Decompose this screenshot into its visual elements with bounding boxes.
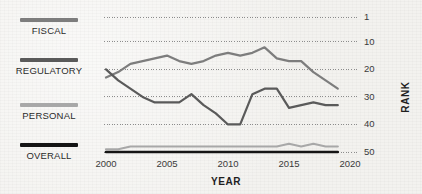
plot-area: 11020304050 20002005201020152020 RANK YE… [98, 0, 422, 194]
y-tick-10: 10 [364, 36, 375, 47]
y-axis-title: RANK [400, 81, 411, 112]
legend-item-fiscal[interactable]: FISCAL [0, 18, 98, 36]
legend-label-personal: PERSONAL [0, 110, 98, 121]
legend-swatch-fiscal [20, 18, 78, 22]
series-line-fiscal [106, 47, 338, 88]
y-tick-50: 50 [364, 146, 375, 157]
x-tick-2015: 2015 [278, 158, 299, 169]
legend-swatch-personal [20, 103, 78, 107]
x-tick-2020: 2020 [339, 158, 360, 169]
y-tick-20: 20 [364, 63, 375, 74]
chart-canvas: FISCAL REGULATORY PERSONAL OVERALL 11020… [0, 0, 422, 194]
gridlines [104, 17, 358, 152]
series-line-personal [106, 144, 338, 150]
y-tick-1: 1 [364, 11, 369, 22]
x-tick-2005: 2005 [156, 158, 177, 169]
legend-label-overall: OVERALL [0, 150, 98, 161]
legend-label-fiscal: FISCAL [0, 25, 98, 36]
y-tick-40: 40 [364, 118, 375, 129]
legend-swatch-overall [20, 143, 78, 147]
legend-item-regulatory[interactable]: REGULATORY [0, 58, 98, 76]
x-tick-2010: 2010 [217, 158, 238, 169]
legend-swatch-regulatory [20, 58, 78, 62]
series-lines [106, 47, 338, 152]
x-tick-2000: 2000 [95, 158, 116, 169]
chart-legend: FISCAL REGULATORY PERSONAL OVERALL [0, 0, 98, 194]
y-tick-30: 30 [364, 91, 375, 102]
legend-item-overall[interactable]: OVERALL [0, 143, 98, 161]
legend-label-regulatory: REGULATORY [0, 65, 98, 76]
x-axis-title: YEAR [211, 176, 241, 187]
legend-item-personal[interactable]: PERSONAL [0, 103, 98, 121]
